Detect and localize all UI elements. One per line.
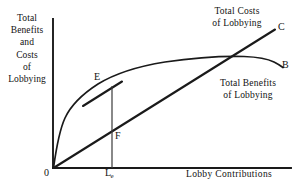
- x-tick-label-le: Le: [105, 168, 114, 179]
- y-axis-title: Total Benefits and Costs of Lobbying: [4, 12, 50, 85]
- y-axis-title-line-5: of: [4, 61, 50, 73]
- y-axis-title-line-2: Benefits: [4, 24, 50, 36]
- y-axis-title-line-1: Total: [4, 12, 50, 24]
- cost-curve-label-line-2: of Lobbying: [192, 18, 282, 30]
- benefit-curve-label-line-2: of Lobbying: [206, 90, 290, 102]
- x-tick-label-subscript: e: [111, 172, 114, 180]
- point-label-b: B: [282, 60, 289, 71]
- point-label-e: E: [94, 72, 100, 83]
- lobbying-cost-benefit-figure: Total Benefits and Costs of Lobbying Lob…: [0, 0, 296, 194]
- cost-curve-label-line-1: Total Costs: [192, 6, 282, 18]
- x-axis-title: Lobby Contributions: [186, 170, 272, 180]
- y-axis-title-line-6: Lobbying: [4, 73, 50, 85]
- benefit-curve-label: Total Benefits of Lobbying: [206, 78, 290, 101]
- origin-label: 0: [44, 168, 49, 179]
- total-benefits-curve: [54, 56, 284, 168]
- point-label-f: F: [115, 131, 121, 142]
- tangent-line-at-E: [83, 82, 122, 107]
- cost-curve-label: Total Costs of Lobbying: [192, 6, 282, 29]
- benefit-curve-label-line-1: Total Benefits: [206, 78, 290, 90]
- point-label-c: C: [278, 22, 285, 33]
- y-axis-title-line-4: Costs: [4, 49, 50, 61]
- y-axis-title-line-3: and: [4, 36, 50, 48]
